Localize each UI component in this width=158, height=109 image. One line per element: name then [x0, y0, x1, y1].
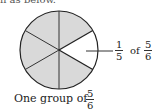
of-text: of [130, 45, 140, 56]
caption-fraction: 5 6 [86, 89, 94, 109]
caption: One group of [14, 92, 87, 105]
numerator: 5 [144, 40, 152, 51]
caption-text: One group of [14, 92, 87, 105]
denominator: 6 [87, 100, 93, 109]
denominator: 5 [116, 51, 122, 62]
fraction-one-fifth: 1 5 [115, 40, 123, 62]
denominator: 6 [145, 51, 151, 62]
fraction-five-sixths: 5 6 [144, 40, 152, 62]
numerator: 5 [86, 89, 94, 100]
numerator: 1 [115, 40, 123, 51]
